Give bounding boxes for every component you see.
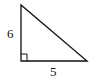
- vertical-leg-label: 6: [7, 26, 14, 41]
- triangle-shape: [21, 5, 87, 61]
- right-triangle-diagram: 6 5: [0, 0, 91, 79]
- horizontal-leg-label: 5: [50, 64, 57, 79]
- right-angle-marker: [21, 54, 27, 61]
